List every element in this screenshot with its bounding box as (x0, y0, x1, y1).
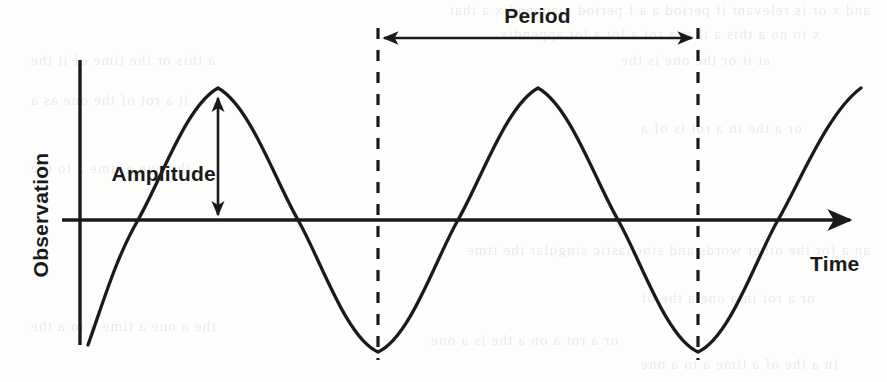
period-label-text: Period (504, 4, 571, 27)
sine-wave-diagram: and x or is relevant if period a a f per… (0, 0, 887, 382)
plot-canvas (0, 0, 887, 382)
period-label: Period (0, 4, 887, 28)
amplitude-label: Amplitude (78, 162, 216, 186)
x-axis-title-time: Time (810, 252, 859, 276)
y-axis-title-observation: Observation (29, 135, 53, 295)
